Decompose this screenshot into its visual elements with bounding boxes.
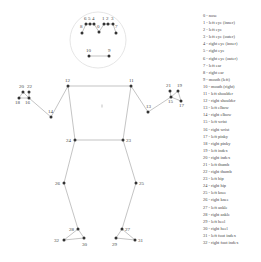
landmark-label-7: 7 xyxy=(115,24,118,29)
landmark-label-28: 28 xyxy=(69,227,75,232)
legend-item: 23 - left hip xyxy=(203,175,261,182)
legend-item: 15 - left wrist xyxy=(203,118,261,125)
landmark-point-12 xyxy=(67,85,70,88)
landmark-point-10 xyxy=(88,55,91,58)
landmark-point-13 xyxy=(147,111,150,114)
landmark-point-11 xyxy=(130,85,133,88)
landmark-label-32: 32 xyxy=(54,238,60,243)
bone-28-30 xyxy=(78,229,84,238)
legend-item: 27 - left ankle xyxy=(203,204,261,211)
landmark-point-27 xyxy=(121,228,124,231)
legend-item: 16 - right wrist xyxy=(203,126,261,133)
legend-item: 29 - left heel xyxy=(203,218,261,225)
bone-12-24 xyxy=(68,86,75,140)
landmark-point-21 xyxy=(169,90,172,93)
landmark-label-17: 17 xyxy=(179,103,185,108)
landmark-point-29 xyxy=(115,237,118,240)
landmark-label-14: 14 xyxy=(48,109,54,114)
landmark-label-2: 2 xyxy=(106,16,109,21)
bone-24-26 xyxy=(64,140,75,183)
legend-item: 9 - mouth (left) xyxy=(203,76,261,83)
landmark-point-4 xyxy=(93,23,96,26)
bone-11-23 xyxy=(123,86,131,140)
landmark-label-12: 12 xyxy=(65,78,71,83)
landmark-label-26: 26 xyxy=(55,181,61,186)
landmark-point-19 xyxy=(177,90,180,93)
legend-item: 7 - left ear xyxy=(203,62,261,69)
landmark-label-9: 9 xyxy=(108,48,111,53)
landmark-label-4: 4 xyxy=(92,16,95,21)
landmark-point-5 xyxy=(89,23,92,26)
bone-26-28 xyxy=(64,183,78,229)
bone-29-31 xyxy=(116,238,135,240)
landmark-legend: 0 - nose1 - left eye (inner)2 - left eye… xyxy=(203,12,261,246)
bone-27-29 xyxy=(116,229,122,238)
landmark-label-29: 29 xyxy=(112,242,118,247)
bone-23-25 xyxy=(123,140,136,183)
landmark-point-20 xyxy=(22,91,25,94)
legend-item: 32 - right foot index xyxy=(203,239,261,246)
bone-12-14 xyxy=(51,86,68,117)
landmark-label-16: 16 xyxy=(25,100,31,105)
landmark-label-18: 18 xyxy=(15,100,21,105)
landmark-point-2 xyxy=(107,23,110,26)
landmark-label-1: 1 xyxy=(102,16,105,21)
landmark-point-25 xyxy=(135,182,138,185)
landmark-label-15: 15 xyxy=(168,99,174,104)
landmark-label-23: 23 xyxy=(126,138,132,143)
landmark-label-0: 0 xyxy=(97,24,100,29)
landmark-label-6: 6 xyxy=(84,16,87,21)
legend-item: 13 - left elbow xyxy=(203,104,261,111)
legend-item: 4 - right eye (inner) xyxy=(203,40,261,47)
legend-item: 18 - right pinky xyxy=(203,140,261,147)
bone-14-16 xyxy=(29,98,51,117)
legend-item: 3 - left eye (outer) xyxy=(203,33,261,40)
landmark-point-24 xyxy=(74,139,77,142)
landmark-label-27: 27 xyxy=(125,227,131,232)
landmark-point-28 xyxy=(77,228,80,231)
landmark-label-13: 13 xyxy=(146,104,152,109)
landmark-point-0 xyxy=(98,31,101,34)
legend-item: 25 - left knee xyxy=(203,189,261,196)
legend-item: 30 - right heel xyxy=(203,225,261,232)
landmark-labels: 0123456789101112131415161718192021222324… xyxy=(15,16,185,247)
legend-item: 14 - right elbow xyxy=(203,111,261,118)
landmark-point-7 xyxy=(115,32,118,35)
legend-item: 22 - right thumb xyxy=(203,168,261,175)
legend-item: 28 - right ankle xyxy=(203,211,261,218)
landmark-point-23 xyxy=(122,139,125,142)
legend-item: 1 - left eye (inner) xyxy=(203,19,261,26)
landmark-point-9 xyxy=(108,55,111,58)
legend-item: 5 - right eye xyxy=(203,47,261,54)
landmark-label-31: 31 xyxy=(138,238,144,243)
skeleton-connections xyxy=(19,24,181,240)
landmark-label-5: 5 xyxy=(88,16,91,21)
bone-30-32 xyxy=(64,238,84,240)
landmark-point-22 xyxy=(28,91,31,94)
landmark-point-6 xyxy=(85,23,88,26)
landmark-label-22: 22 xyxy=(27,84,33,89)
legend-item: 12 - right shoulder xyxy=(203,97,261,104)
legend-item: 21 - left thumb xyxy=(203,161,261,168)
landmark-label-11: 11 xyxy=(129,78,134,83)
landmark-point-32 xyxy=(63,239,66,242)
legend-item: 10 - mouth (right) xyxy=(203,83,261,90)
legend-item: 20 - right index xyxy=(203,154,261,161)
bone-25-27 xyxy=(122,183,136,229)
landmark-point-30 xyxy=(83,237,86,240)
legend-item: 2 - left eye xyxy=(203,26,261,33)
legend-item: 26 - right knee xyxy=(203,196,261,203)
bone-17-19 xyxy=(178,91,181,101)
legend-item: 8 - right ear xyxy=(203,69,261,76)
landmark-label-19: 19 xyxy=(177,83,183,88)
landmark-label-21: 21 xyxy=(166,83,172,88)
legend-item: 11 - left shoulder xyxy=(203,90,261,97)
landmark-point-26 xyxy=(63,182,66,185)
legend-item: 24 - right hip xyxy=(203,182,261,189)
landmark-label-10: 10 xyxy=(86,48,92,53)
landmark-label-20: 20 xyxy=(19,84,25,89)
legend-item: 19 - left index xyxy=(203,147,261,154)
landmark-point-14 xyxy=(50,116,53,119)
landmark-point-1 xyxy=(103,23,106,26)
face-outline-circle xyxy=(70,12,126,68)
